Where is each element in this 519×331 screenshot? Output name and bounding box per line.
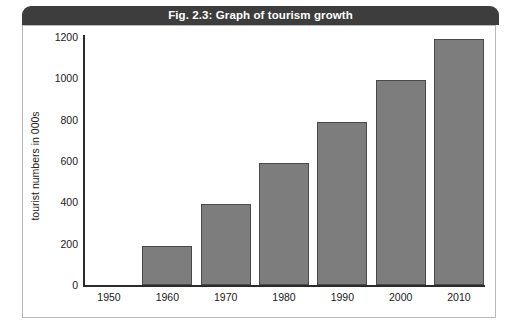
y-tick-label: 400 (26, 196, 78, 208)
x-tick-label: 2010 (434, 291, 484, 303)
figure-container: Fig. 2.3: Graph of tourism growth touris… (0, 0, 519, 331)
x-tick-label: 2000 (376, 291, 426, 303)
bar-slot (142, 37, 192, 285)
x-tick-label: 1970 (201, 291, 251, 303)
chart-area: tourist numbers in 000s 0200400600800100… (22, 25, 496, 318)
plot-region (84, 37, 484, 285)
bar-1970 (201, 204, 251, 285)
bar-slot (84, 37, 134, 285)
y-tick-label: 1000 (26, 72, 78, 84)
y-tick-label: 800 (26, 114, 78, 126)
y-tick-label: 1200 (26, 31, 78, 43)
x-axis-line (83, 285, 485, 287)
x-tick-label: 1960 (142, 291, 192, 303)
bar-1980 (259, 163, 309, 285)
bar-slot (317, 37, 367, 285)
bar-slot (376, 37, 426, 285)
figure-title-bar: Fig. 2.3: Graph of tourism growth (22, 6, 499, 25)
y-tick-label: 0 (26, 279, 78, 291)
x-axis-ticks: 1950196019701980199020002010 (84, 291, 484, 303)
bar-2010 (434, 39, 484, 285)
bar-slot (201, 37, 251, 285)
x-tick-label: 1980 (259, 291, 309, 303)
y-tick-label: 600 (26, 155, 78, 167)
bar-1960 (142, 246, 192, 285)
bar-2000 (376, 80, 426, 285)
bar-slot (259, 37, 309, 285)
x-tick-label: 1990 (317, 291, 367, 303)
bar-1990 (317, 122, 367, 285)
bar-slot (434, 37, 484, 285)
x-tick-label: 1950 (84, 291, 134, 303)
y-axis-ticks: 020040060080010001200 (22, 25, 78, 318)
bar-series (84, 37, 484, 285)
y-tick-label: 200 (26, 238, 78, 250)
